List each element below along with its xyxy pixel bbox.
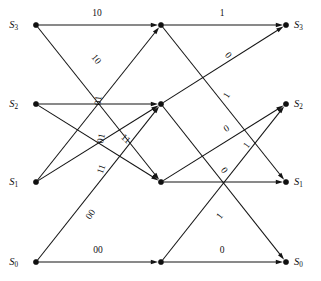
n-left-s0-label: S0 <box>9 256 18 269</box>
n-right-s1-label: S1 <box>294 176 303 189</box>
edge-s3-s1-stage2 <box>163 27 285 180</box>
arrowhead-icon <box>276 23 283 27</box>
label-s0-s0-stage1: 00 <box>93 245 103 255</box>
n-mid-s1[interactable] <box>158 179 163 184</box>
arrowhead-icon <box>151 23 158 27</box>
n-left-s2-label: S2 <box>9 98 18 111</box>
arrowhead-icon <box>276 180 283 184</box>
label-s2-s2-stage1: 01 <box>95 132 107 144</box>
n-left-s1-label: S1 <box>9 176 18 189</box>
n-left-s2[interactable] <box>33 101 38 106</box>
n-right-s1[interactable] <box>283 179 288 184</box>
edge-s3-s3-stage2 <box>164 23 283 27</box>
n-right-s0-label: S0 <box>294 256 303 269</box>
n-left-s0[interactable] <box>33 259 38 264</box>
edge-s0-s2-stage1 <box>38 106 160 260</box>
trellis-diagram-figure: 101001011111000010101010 S3S2S1S0S3S2S1S… <box>0 0 321 281</box>
label-s3-s1-stage1: 10 <box>89 52 103 66</box>
nodes-layer <box>33 22 288 264</box>
n-left-s3-label: S3 <box>9 19 18 32</box>
n-left-s3[interactable] <box>33 22 38 27</box>
edge-labels-layer: 101001011111000010101010 <box>84 8 252 255</box>
edge-s3-s3-stage1 <box>39 23 158 27</box>
n-mid-s2[interactable] <box>158 101 163 106</box>
arrowhead-icon <box>276 27 283 33</box>
label-s0-s0-stage2: 0 <box>220 245 225 255</box>
edge-s0-s0-stage2 <box>164 260 283 264</box>
n-right-s2[interactable] <box>283 101 288 106</box>
label-s3-s3-stage1: 10 <box>92 8 102 18</box>
arrowhead-icon <box>276 260 283 264</box>
state-labels-layer: S3S2S1S0S3S2S1S0 <box>9 19 303 269</box>
label-s0-s2-stage1: 00 <box>84 207 98 221</box>
trellis-canvas: 101001011111000010101010 S3S2S1S0S3S2S1S… <box>0 0 321 281</box>
arrowhead-icon <box>151 102 158 106</box>
n-right-s3[interactable] <box>283 22 288 27</box>
arrowhead-icon <box>151 260 158 264</box>
label-s2-s3-stage2: 1 <box>221 90 232 100</box>
label-s1-s2-stage2: 0 <box>222 123 232 134</box>
label-s3-s3-stage2: 1 <box>220 8 225 18</box>
n-right-s3-label: S3 <box>294 19 303 32</box>
n-mid-s0[interactable] <box>158 259 163 264</box>
label-s0-s2-stage2b: 1 <box>214 211 225 221</box>
n-right-s0[interactable] <box>283 259 288 264</box>
edge-s0-s0-stage1 <box>39 260 158 264</box>
n-right-s2-label: S2 <box>294 98 303 111</box>
label-s2-s0-stage2: 0 <box>219 165 230 175</box>
n-mid-s3[interactable] <box>158 22 163 27</box>
label-s1-s3-stage1: 01 <box>92 95 103 106</box>
n-left-s1[interactable] <box>33 179 38 184</box>
